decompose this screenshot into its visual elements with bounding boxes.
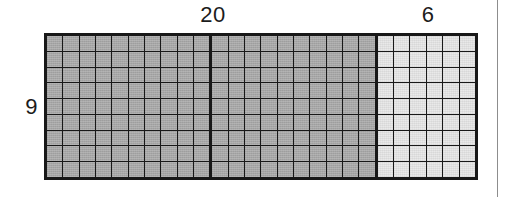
grid-cell	[128, 99, 144, 114]
grid-row	[47, 36, 209, 51]
grid-cell	[293, 115, 309, 130]
grid-cell	[79, 162, 95, 177]
grid-cell	[79, 99, 95, 114]
grid-cell	[128, 162, 144, 177]
grid-cell	[144, 162, 160, 177]
grid-cell	[79, 36, 95, 51]
grid-cell	[160, 146, 176, 161]
grid-cell	[442, 162, 458, 177]
grid-cell	[212, 36, 227, 51]
grid-cell	[409, 162, 425, 177]
grid-cell	[309, 115, 325, 130]
grid-cell	[459, 162, 475, 177]
grid-row	[47, 82, 209, 98]
grid-row	[47, 145, 209, 161]
grid-cell	[160, 115, 176, 130]
grid-cell	[393, 146, 409, 161]
grid-cell	[212, 83, 227, 98]
grid-cell	[111, 146, 127, 161]
grid-cell	[309, 52, 325, 67]
grid-cell	[342, 36, 358, 51]
grid-cell	[144, 146, 160, 161]
grid-cell	[79, 115, 95, 130]
grid-cell	[79, 68, 95, 83]
grid-cell	[111, 52, 127, 67]
grid-cell	[426, 146, 442, 161]
grid-cell	[47, 52, 62, 67]
grid-row	[212, 145, 374, 161]
grid-cell	[342, 115, 358, 130]
grid-cell	[111, 162, 127, 177]
width-label-20: 20	[148, 4, 278, 26]
grid-cell	[426, 115, 442, 130]
grid-cell	[358, 131, 374, 146]
grid-cell	[409, 146, 425, 161]
grid-cell	[160, 68, 176, 83]
grid-cell	[244, 115, 260, 130]
grid-row	[378, 145, 475, 161]
grid-cell	[111, 83, 127, 98]
grid-cell	[228, 146, 244, 161]
grid-cell	[177, 162, 193, 177]
grid-cell	[47, 99, 62, 114]
area-model-figure: 20 6 9	[0, 0, 508, 197]
grid-cell	[160, 131, 176, 146]
grid-cell	[342, 146, 358, 161]
grid-row	[47, 130, 209, 146]
grid-cell	[260, 146, 276, 161]
grid-cell	[193, 36, 209, 51]
grid-cell	[193, 68, 209, 83]
grid-cell	[193, 99, 209, 114]
grid-row	[212, 51, 374, 67]
grid-cell	[160, 83, 176, 98]
grid-cell	[342, 68, 358, 83]
grid-row	[378, 130, 475, 146]
grid-cell	[177, 52, 193, 67]
grid-cell	[277, 52, 293, 67]
grid-cell	[426, 131, 442, 146]
grid-cell	[442, 52, 458, 67]
grid-cell	[177, 99, 193, 114]
grid-cell	[426, 99, 442, 114]
grid-cell	[393, 99, 409, 114]
grid-cell	[358, 115, 374, 130]
grid-cell	[459, 146, 475, 161]
grid-cell	[459, 83, 475, 98]
grid-cell	[442, 115, 458, 130]
grid-cell	[260, 83, 276, 98]
grid-cell	[111, 68, 127, 83]
grid-cell	[228, 162, 244, 177]
grid-cell	[177, 83, 193, 98]
grid-cell	[342, 83, 358, 98]
grid-cell	[358, 146, 374, 161]
grid-cell	[309, 83, 325, 98]
grid-cell	[459, 115, 475, 130]
grid-cell	[326, 68, 342, 83]
grid-cell	[459, 99, 475, 114]
grid-cell	[144, 68, 160, 83]
grid-cell	[342, 162, 358, 177]
grid-cell	[212, 52, 227, 67]
grid-cell	[277, 131, 293, 146]
grid-cell	[228, 52, 244, 67]
grid-cell	[177, 131, 193, 146]
grid-cell	[177, 68, 193, 83]
grid-cell	[358, 162, 374, 177]
grid-cell	[95, 99, 111, 114]
grid-cell	[260, 36, 276, 51]
grid-cell	[409, 115, 425, 130]
grid-cell	[409, 99, 425, 114]
grid-cell	[326, 146, 342, 161]
grid-cell	[326, 131, 342, 146]
grid-cell	[79, 146, 95, 161]
grid-cell	[111, 131, 127, 146]
grid-cell	[342, 99, 358, 114]
grid-cell	[326, 99, 342, 114]
grid-cell	[177, 36, 193, 51]
grid-cell	[193, 115, 209, 130]
grid-cell	[62, 146, 78, 161]
grid-cell	[393, 131, 409, 146]
grid-cell	[62, 115, 78, 130]
grid-cell	[62, 99, 78, 114]
grid-row	[378, 161, 475, 177]
